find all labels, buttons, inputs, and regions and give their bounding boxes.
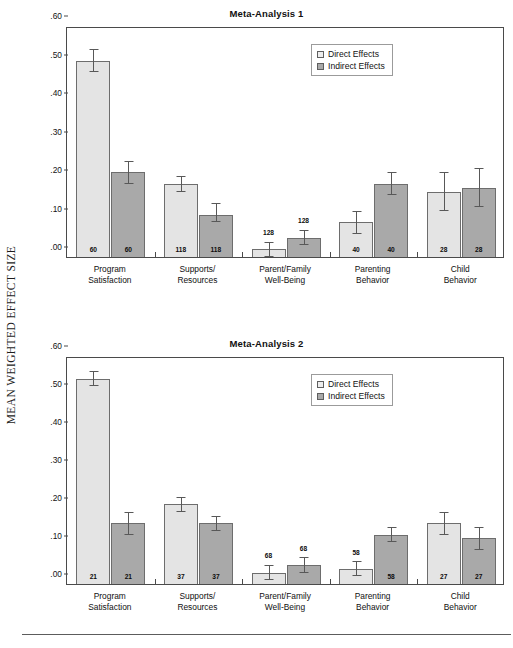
y-axis-tick: .00 — [50, 242, 67, 252]
legend-item-direct: Direct Effects — [317, 378, 385, 390]
error-bar — [93, 371, 94, 386]
legend-swatch-indirect-icon — [317, 63, 324, 70]
error-bar-cap-bottom — [177, 511, 186, 512]
error-bar-cap-top — [387, 527, 396, 528]
error-bar-cap-bottom — [212, 530, 221, 531]
x-axis-category-line: Behavior — [444, 275, 477, 286]
error-bar-cap-top — [177, 497, 186, 498]
error-bar — [444, 512, 445, 535]
x-axis-category-label: ParentingBehavior — [355, 264, 391, 286]
legend-item-label: Indirect Effects — [328, 390, 385, 402]
y-axis-tick-mark — [64, 422, 68, 423]
x-axis-category-line: Well-Being — [259, 602, 311, 613]
x-axis-category-line: Parenting — [355, 591, 391, 602]
chart-panel-meta-analysis-1: Meta-Analysis 1 .00.10.20.30.40.50.60601… — [22, 8, 511, 298]
bar-sample-size-label: 37 — [177, 574, 184, 581]
y-axis-tick: .50 — [50, 379, 67, 389]
bar-sample-size-label: 60 — [125, 247, 132, 254]
figure-root: MEAN WEIGHTED EFFECT SIZE Meta-Analysis … — [0, 0, 513, 648]
plot-area: .00.10.20.30.40.50.606011812840286011812… — [66, 27, 504, 258]
error-bar-cap-top — [387, 172, 396, 173]
bar-sample-size-label: 118 — [176, 247, 187, 254]
y-axis-tick-mark — [64, 16, 68, 17]
y-axis-tick-mark — [64, 247, 68, 248]
chart-title: Meta-Analysis 2 — [22, 338, 511, 349]
error-bar-cap-top — [124, 161, 133, 162]
x-axis-category-line: Program — [88, 591, 131, 602]
y-axis-tick-mark — [64, 536, 68, 537]
y-axis-tick: .40 — [50, 417, 67, 427]
y-axis-tick-mark — [64, 498, 68, 499]
legend-swatch-direct-icon — [317, 51, 324, 58]
plot-area: .00.10.20.30.40.50.602137685827213768582… — [66, 357, 504, 585]
x-axis-category-line: Child — [444, 264, 477, 275]
error-bar-cap-bottom — [89, 71, 98, 72]
x-axis-category-line: Parent/Family — [259, 591, 311, 602]
x-axis-category-label: ParentingBehavior — [355, 591, 391, 613]
x-axis-category-label: Parent/FamilyWell-Being — [259, 591, 311, 613]
y-axis-tick-mark — [64, 170, 68, 171]
y-axis-tick-mark — [64, 208, 68, 209]
x-axis-category-line: Parent/Family — [259, 264, 311, 275]
bar-sample-size-label: 21 — [90, 574, 97, 581]
error-bar — [356, 561, 357, 576]
legend-item-direct: Direct Effects — [317, 48, 385, 60]
error-bar — [479, 168, 480, 207]
legend-item-label: Indirect Effects — [328, 60, 385, 72]
error-bar-cap-top — [440, 512, 449, 513]
category-separator-tick — [417, 579, 418, 584]
error-bar — [304, 230, 305, 245]
bar-sample-size-label: 37 — [212, 574, 219, 581]
y-axis-caption: MEAN WEIGHTED EFFECT SIZE — [0, 190, 22, 480]
error-bar — [216, 203, 217, 222]
legend-item-indirect: Indirect Effects — [317, 60, 385, 72]
error-bar — [181, 176, 182, 191]
x-axis-category-line: Child — [444, 591, 477, 602]
category-separator-tick — [242, 252, 243, 257]
error-bar — [269, 565, 270, 580]
y-axis-tick: .30 — [50, 455, 67, 465]
category-separator-tick — [155, 252, 156, 257]
error-bar-cap-bottom — [265, 579, 274, 580]
category-separator-tick — [417, 252, 418, 257]
error-bar-cap-top — [265, 565, 274, 566]
error-bar-cap-bottom — [300, 244, 309, 245]
x-axis-category-line: Supports/ — [177, 264, 217, 275]
bar-sample-size-label: 68 — [265, 553, 272, 560]
error-bar — [181, 497, 182, 512]
error-bar — [269, 242, 270, 257]
error-bar-cap-bottom — [387, 194, 396, 195]
bar-sample-size-label: 60 — [90, 247, 97, 254]
y-axis-tick: .20 — [50, 165, 67, 175]
bar-direct — [76, 379, 110, 584]
x-axis-category-line: Parenting — [355, 264, 391, 275]
error-bar-cap-top — [124, 512, 133, 513]
legend-swatch-direct-icon — [317, 381, 324, 388]
error-bar-cap-top — [212, 516, 221, 517]
error-bar-cap-top — [177, 176, 186, 177]
y-axis-tick: .30 — [50, 127, 67, 137]
x-axis-category-line: Well-Being — [259, 275, 311, 286]
category-separator-tick — [242, 579, 243, 584]
x-axis-category-line: Program — [88, 264, 131, 275]
y-axis-tick-mark — [64, 93, 68, 94]
error-bar-cap-bottom — [352, 575, 361, 576]
error-bar — [304, 557, 305, 572]
error-bar-cap-top — [300, 230, 309, 231]
error-bar-cap-bottom — [177, 191, 186, 192]
bar-sample-size-label: 58 — [352, 550, 359, 557]
y-axis-caption-text: MEAN WEIGHTED EFFECT SIZE — [5, 246, 17, 425]
x-axis-category-label: ChildBehavior — [444, 591, 477, 613]
y-axis-tick-mark — [64, 346, 68, 347]
bar-sample-size-label: 40 — [387, 247, 394, 254]
x-axis-category-line: Resources — [177, 275, 217, 286]
y-axis-tick-mark — [64, 384, 68, 385]
error-bar-cap-top — [475, 168, 484, 169]
category-separator-tick — [330, 579, 331, 584]
x-axis-category-line: Resources — [177, 602, 217, 613]
bar-sample-size-label: 118 — [211, 247, 222, 254]
error-bar-cap-top — [89, 371, 98, 372]
chart-legend: Direct EffectsIndirect Effects — [311, 374, 393, 406]
error-bar — [391, 172, 392, 195]
bar-sample-size-label: 28 — [475, 247, 482, 254]
